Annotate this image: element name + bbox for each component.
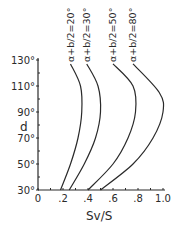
y-tick-label: 50° [17, 159, 35, 170]
x-tick-label: .4 [83, 193, 93, 204]
series-label: α+b/2=20° [65, 8, 76, 62]
x-tick-label: .8 [133, 193, 143, 204]
series-label: α+b/2=30° [81, 8, 92, 62]
x-tick-label: .6 [108, 193, 118, 204]
x-tick-label: 0 [35, 193, 41, 204]
curves [61, 64, 164, 190]
y-tick-label: 70° [17, 133, 35, 144]
series-labels: α+b/2=20°α+b/2=30°α+b/2=50°α+b/2=80° [65, 8, 139, 62]
series-label: α+b/2=80° [127, 8, 138, 62]
x-axis-label: Sv/S [86, 209, 112, 223]
series-curve [69, 64, 100, 190]
x-tick-label: .2 [58, 193, 68, 204]
x-tick-label: 1.0 [155, 193, 171, 204]
y-tick-label: 90° [17, 107, 35, 118]
y-tick-label: 30° [17, 185, 35, 196]
y-tick-label: 130° [11, 55, 35, 66]
y-axis-label: d [20, 120, 28, 134]
series-curve [88, 64, 136, 190]
chart: 30°50°70°90°110°130° 0.2.4.6.81.0 α+b/2=… [0, 0, 180, 234]
series-label: α+b/2=50° [107, 8, 118, 62]
series-curve [61, 64, 83, 190]
y-tick-label: 110° [11, 81, 35, 92]
